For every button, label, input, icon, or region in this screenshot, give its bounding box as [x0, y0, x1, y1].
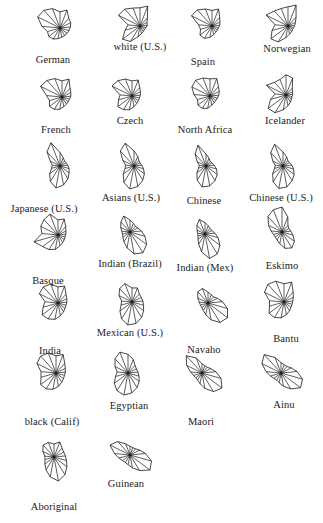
- star-center-dot: [204, 233, 207, 236]
- star-spokes: [192, 9, 220, 38]
- star-spokes: [262, 355, 303, 389]
- star-glyph-label: Egyptian: [110, 400, 149, 411]
- star-glyph-svg: [30, 0, 90, 58]
- star-center-dot: [283, 301, 286, 304]
- star-glyph-label: Indian (Brazil): [98, 258, 162, 269]
- star-spokes: [268, 207, 294, 248]
- star-glyph-svg: [178, 273, 238, 333]
- star-glyph: [28, 273, 88, 333]
- star-center-dot: [139, 25, 142, 28]
- star-glyph: [26, 343, 86, 403]
- star-glyph: [182, 0, 242, 56]
- star-center-dot: [53, 456, 56, 459]
- star-center-dot: [282, 165, 285, 168]
- star-glyph-label: German: [36, 54, 70, 65]
- star-glyph: [30, 0, 90, 58]
- star-spokes: [266, 5, 296, 42]
- star-glyph-svg: [100, 425, 160, 485]
- star-spokes: [114, 352, 139, 395]
- star-glyph-svg: [172, 343, 232, 403]
- star-glyph-label: Icelander: [265, 115, 305, 126]
- star-center-dot: [287, 25, 290, 28]
- star-center-dot: [61, 96, 64, 99]
- star-outline: [266, 5, 296, 42]
- star-plot-figure: Germanwhite (U.S.)SpainNorwegianFrenchCz…: [0, 0, 323, 523]
- star-glyph-svg: [32, 67, 92, 127]
- star-center-dot: [209, 95, 212, 98]
- star-spokes: [121, 216, 147, 254]
- star-glyph: [178, 273, 238, 333]
- star-glyph-svg: [254, 272, 314, 332]
- star-glyph: [175, 204, 235, 264]
- star-glyph-svg: [30, 136, 90, 196]
- star-glyph: [172, 343, 232, 403]
- star-spokes: [198, 288, 228, 322]
- star-center-dot: [127, 372, 130, 375]
- star-glyph-svg: [28, 205, 88, 265]
- star-glyph-label: Norwegian: [263, 43, 311, 54]
- star-center-dot: [280, 372, 283, 375]
- star-spokes: [197, 219, 220, 258]
- star-glyph-svg: [251, 343, 311, 403]
- star-glyph: [180, 66, 240, 126]
- star-glyph: [251, 343, 311, 403]
- star-glyph: [24, 427, 84, 487]
- star-glyph: [28, 205, 88, 265]
- star-glyph-svg: [100, 202, 160, 262]
- star-glyph-label: Aboriginal: [31, 501, 78, 512]
- star-glyph-label: Ainu: [273, 399, 294, 410]
- star-spokes: [192, 78, 219, 108]
- star-glyph: [100, 202, 160, 262]
- star-center-dot: [205, 165, 208, 168]
- star-spokes: [266, 75, 292, 113]
- star-glyph-svg: [252, 202, 312, 262]
- star-center-dot: [131, 95, 134, 98]
- star-glyph-svg: [182, 0, 242, 56]
- star-outline: [119, 6, 148, 41]
- star-glyph-svg: [104, 136, 164, 196]
- star-glyph-label: Indian (Mex): [177, 262, 234, 273]
- star-spokes: [112, 79, 140, 110]
- star-glyph-label: black (Calif): [25, 416, 80, 427]
- star-glyph-svg: [98, 343, 158, 403]
- star-glyph-svg: [175, 204, 235, 264]
- star-glyph: [254, 272, 314, 332]
- star-outline: [198, 288, 228, 322]
- star-center-dot: [131, 301, 134, 304]
- star-center-dot: [207, 302, 210, 305]
- star-center-dot: [59, 165, 62, 168]
- star-center-dot: [281, 231, 284, 234]
- star-center-dot: [129, 231, 132, 234]
- star-glyph: [104, 136, 164, 196]
- star-glyph: [98, 343, 158, 403]
- star-center-dot: [59, 27, 62, 30]
- star-center-dot: [133, 165, 136, 168]
- star-glyph: [32, 67, 92, 127]
- star-center-dot: [57, 234, 60, 237]
- star-glyph-svg: [253, 136, 313, 196]
- star-glyph-label: white (U.S.): [114, 41, 167, 52]
- star-center-dot: [201, 372, 204, 375]
- star-spokes: [119, 6, 148, 41]
- star-glyph-label: French: [41, 124, 71, 135]
- star-center-dot: [285, 94, 288, 97]
- star-glyph-label: Maori: [188, 416, 214, 427]
- star-glyph-svg: [28, 273, 88, 333]
- star-outline: [268, 207, 294, 248]
- star-glyph-label: North Africa: [178, 124, 233, 135]
- star-glyph: [176, 136, 236, 196]
- star-outline: [192, 9, 220, 38]
- star-glyph: [253, 136, 313, 196]
- star-glyph-label: Guinean: [108, 478, 144, 489]
- star-glyph-svg: [180, 66, 240, 126]
- star-glyph-label: Eskimo: [266, 260, 299, 271]
- star-glyph-svg: [102, 272, 162, 332]
- star-center-dot: [57, 302, 60, 305]
- star-center-dot: [129, 454, 132, 457]
- star-glyph-label: Mexican (U.S.): [97, 327, 163, 338]
- star-spokes: [39, 284, 66, 319]
- star-glyph-svg: [24, 427, 84, 487]
- star-glyph-svg: [176, 136, 236, 196]
- star-glyph: [100, 425, 160, 485]
- star-center-dot: [211, 25, 214, 28]
